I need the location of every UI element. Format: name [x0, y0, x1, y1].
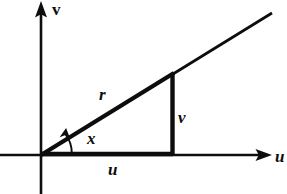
figure-canvas: v u r x v u: [0, 0, 287, 194]
triangle-hypotenuse-side: [41, 73, 174, 155]
angle-arc-arrowhead: [60, 128, 71, 139]
v-axis-group: [35, 1, 47, 194]
figure-drawing: [0, 0, 287, 194]
v-axis-label: v: [52, 1, 61, 18]
base-side-label-u: u: [108, 161, 117, 178]
triangle-group: [40, 73, 174, 156]
u-axis-label: u: [275, 148, 284, 165]
vertical-side-label-v: v: [178, 109, 186, 126]
hypotenuse-label-r: r: [99, 86, 106, 103]
hypotenuse-extension-ray: [173, 13, 272, 74]
angle-label-x: x: [87, 130, 96, 147]
